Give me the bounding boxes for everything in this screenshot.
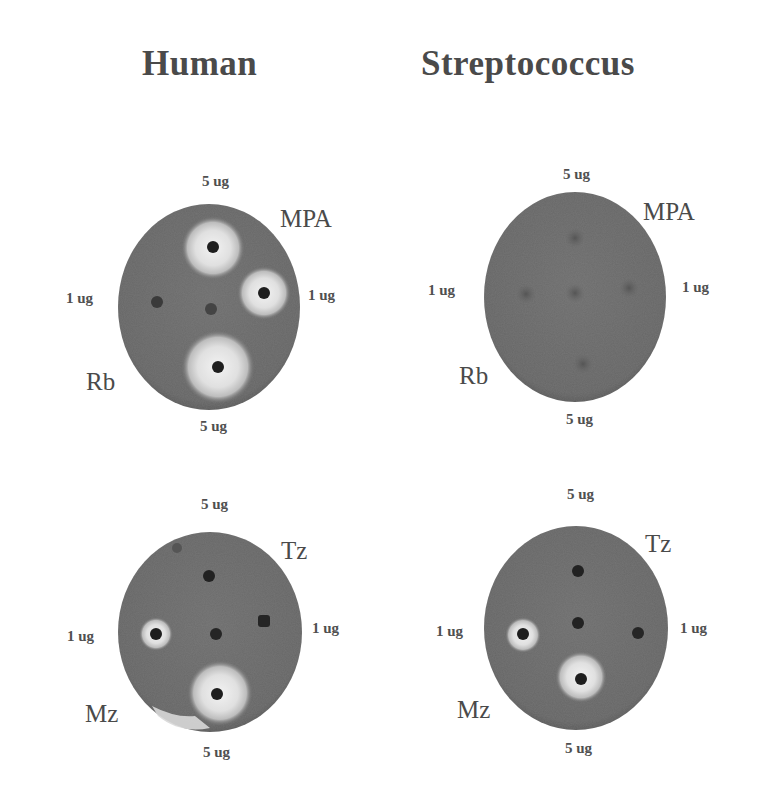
drug-label-mz: Mz bbox=[457, 696, 490, 724]
dose-label-top: 5 ug bbox=[201, 496, 228, 513]
dose-label-top: 5 ug bbox=[567, 486, 594, 503]
disc-top bbox=[565, 228, 585, 248]
disc-bottom bbox=[575, 673, 587, 685]
disc-top bbox=[203, 570, 215, 582]
dose-label-right: 1 ug bbox=[312, 620, 339, 637]
disc-right bbox=[619, 278, 639, 298]
plate-strep-mpa-rb bbox=[484, 192, 666, 402]
disc-center bbox=[205, 303, 217, 315]
dose-label-top: 5 ug bbox=[202, 173, 229, 190]
disc-center bbox=[565, 283, 585, 303]
dose-label-bottom: 5 ug bbox=[200, 418, 227, 435]
dose-label-right: 1 ug bbox=[682, 279, 709, 296]
disc-left bbox=[517, 628, 529, 640]
disc-right bbox=[632, 627, 644, 639]
dose-label-right: 1 ug bbox=[308, 287, 335, 304]
plates-figure bbox=[0, 0, 762, 794]
disc-left bbox=[151, 296, 163, 308]
drug-label-tz: Tz bbox=[645, 530, 671, 558]
disc-left bbox=[516, 284, 536, 304]
plate-human-tz-mz bbox=[118, 532, 302, 732]
plate-strep-tz-mz bbox=[484, 526, 668, 730]
drug-label-mpa: MPA bbox=[643, 198, 695, 226]
dose-label-right: 1 ug bbox=[680, 620, 707, 637]
disc-bottom bbox=[211, 688, 223, 700]
drug-label-rb: Rb bbox=[86, 368, 115, 396]
disc-center bbox=[210, 628, 222, 640]
dose-label-top: 5 ug bbox=[563, 166, 590, 183]
disc-bottom bbox=[573, 354, 593, 374]
dose-label-left: 1 ug bbox=[428, 282, 455, 299]
drug-label-mpa: MPA bbox=[280, 205, 332, 233]
dose-label-bottom: 5 ug bbox=[566, 411, 593, 428]
disc-right bbox=[258, 287, 270, 299]
dose-label-bottom: 5 ug bbox=[203, 744, 230, 761]
disc-top bbox=[207, 241, 219, 253]
disc-right bbox=[258, 615, 270, 627]
disc-center bbox=[572, 617, 584, 629]
dose-label-bottom: 5 ug bbox=[565, 740, 592, 757]
drug-label-tz: Tz bbox=[281, 537, 307, 565]
dose-label-left: 1 ug bbox=[436, 623, 463, 640]
dose-label-left: 1 ug bbox=[66, 290, 93, 307]
dose-label-left: 1 ug bbox=[67, 628, 94, 645]
disc-left bbox=[150, 628, 162, 640]
drug-label-mz: Mz bbox=[85, 700, 118, 728]
disc-bottom bbox=[212, 361, 224, 373]
plate-human-mpa-rb bbox=[118, 204, 300, 410]
drug-label-rb: Rb bbox=[459, 362, 488, 390]
disc-top bbox=[572, 565, 584, 577]
